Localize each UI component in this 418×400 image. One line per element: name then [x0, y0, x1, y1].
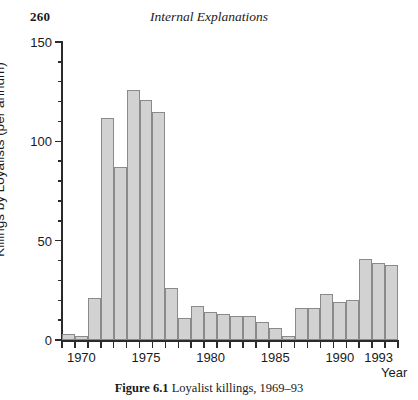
x-tick-9: [178, 341, 180, 348]
x-tick-3: [100, 341, 102, 348]
figure-caption-label: Figure 6.1: [115, 381, 172, 395]
x-tick-17: [281, 341, 283, 348]
bar-1983: [243, 316, 256, 340]
y-axis-ticks: 050100150: [0, 0, 62, 400]
x-tick-11: [203, 341, 205, 348]
bar-1978: [178, 318, 191, 340]
bar-1988: [308, 308, 321, 340]
bar-1989: [320, 294, 333, 340]
y-tick-50: [55, 240, 62, 242]
bar-1972: [101, 118, 114, 341]
x-tick-7: [152, 341, 154, 348]
bar-1984: [256, 322, 269, 340]
x-tick-20: [320, 341, 322, 348]
y-tick-label-100: 100: [30, 134, 52, 149]
y-axis-title: Killings by Loyalists (per annum): [0, 10, 7, 310]
x-tick-19: [307, 341, 309, 348]
x-tick-1: [74, 341, 76, 348]
x-tick-2: [87, 341, 89, 348]
bar-1969: [62, 334, 75, 340]
x-tick-23: [358, 341, 360, 348]
bar-1974: [127, 90, 140, 340]
bar-1973: [114, 167, 127, 340]
bar-1993: [372, 263, 385, 340]
bar-1982: [230, 316, 243, 340]
x-tick-18: [294, 341, 296, 348]
x-tick-5: [126, 341, 128, 348]
x-tick-label-1970: 1970: [67, 350, 96, 365]
bar-1991: [346, 300, 359, 340]
x-tick-13: [229, 341, 231, 348]
y-tick-label-0: 0: [45, 333, 52, 348]
y-tick-150: [55, 41, 62, 43]
bar-1979: [191, 306, 204, 340]
bar-1981: [217, 314, 230, 340]
y-tick-label-50: 50: [38, 233, 52, 248]
bar-25: [385, 265, 398, 340]
x-tick-12: [216, 341, 218, 348]
x-tick-24: [371, 341, 373, 348]
x-tick-15: [255, 341, 257, 348]
bar-1976: [152, 112, 165, 340]
x-tick-label-1993: 1993: [364, 350, 393, 365]
x-tick-label-1980: 1980: [196, 350, 225, 365]
plot-area: Killings by Loyalists (per annum): [62, 42, 398, 340]
bar-1971: [88, 298, 101, 340]
x-tick-22: [346, 341, 348, 348]
bar-1985: [269, 328, 282, 340]
bar-1987: [295, 308, 308, 340]
x-tick-label-1990: 1990: [325, 350, 354, 365]
bar-1986: [282, 336, 295, 340]
x-tick-14: [242, 341, 244, 348]
x-tick-0: [61, 341, 63, 348]
x-tick-16: [268, 341, 270, 348]
bar-1980: [204, 312, 217, 340]
bar-1970: [75, 336, 88, 340]
x-tick-21: [333, 341, 335, 348]
bar-1975: [140, 100, 153, 340]
x-tick-10: [190, 341, 192, 348]
y-tick-100: [55, 141, 62, 143]
x-tick-label-1985: 1985: [261, 350, 290, 365]
bar-1992: [359, 259, 372, 340]
x-tick-25: [384, 341, 386, 348]
figure-6-1: 050100150 Killings by Loyalists (per ann…: [0, 0, 418, 400]
bar-1990: [333, 302, 346, 340]
x-tick-26: [397, 341, 399, 348]
x-tick-label-1975: 1975: [132, 350, 161, 365]
figure-caption-text: Loyalist killings, 1969–93: [172, 381, 304, 395]
x-axis-title: Year: [381, 365, 407, 380]
bar-1977: [165, 288, 178, 340]
x-tick-6: [139, 341, 141, 348]
y-tick-label-150: 150: [30, 35, 52, 50]
x-tick-8: [165, 341, 167, 348]
figure-caption: Figure 6.1 Loyalist killings, 1969–93: [0, 381, 418, 396]
x-tick-4: [113, 341, 115, 348]
